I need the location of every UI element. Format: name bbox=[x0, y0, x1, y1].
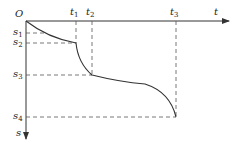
t-axis-label: t bbox=[214, 6, 219, 17]
s-axis-label: s bbox=[16, 127, 21, 138]
displacement-time-diagram: O t s t1 t2 t3 s1 s2 s3 s4 bbox=[0, 0, 238, 147]
t2-label: t2 bbox=[86, 6, 95, 19]
svg-text:s4: s4 bbox=[13, 110, 23, 123]
origin-label: O bbox=[15, 8, 23, 19]
svg-text:s3: s3 bbox=[13, 68, 23, 81]
svg-text:t3: t3 bbox=[170, 6, 179, 19]
svg-text:t1: t1 bbox=[70, 6, 79, 19]
svg-text:t2: t2 bbox=[86, 6, 95, 19]
t3-label: t3 bbox=[170, 6, 179, 19]
guide-lines bbox=[26, 21, 176, 117]
t1-label: t1 bbox=[70, 6, 79, 19]
s4-label: s4 bbox=[13, 110, 23, 123]
motion-curve bbox=[26, 21, 176, 117]
s3-label: s3 bbox=[13, 68, 23, 81]
